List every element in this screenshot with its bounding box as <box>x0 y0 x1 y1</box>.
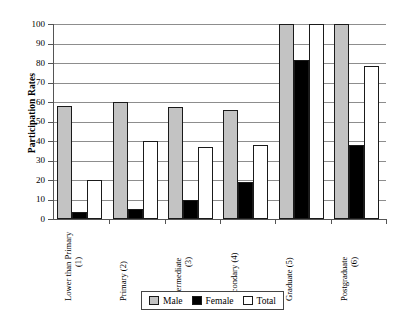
x-category-label: Postgraduate(6) <box>347 223 363 301</box>
y-tick-label-0: 0 <box>19 215 45 224</box>
bar-male <box>57 106 72 219</box>
x-category-label-line2: (6) <box>349 223 360 301</box>
bar-total <box>198 147 213 219</box>
x-category-label: Lower than Primary(1) <box>71 223 87 301</box>
y-tick-label-70: 70 <box>19 78 45 87</box>
bar-group <box>279 24 324 219</box>
bar-male <box>279 24 294 219</box>
bar-total <box>309 24 324 219</box>
participation-rates-bar-chart: Participation Rates 10090807060504030201… <box>0 0 404 322</box>
x-category-label-line2: (3) <box>183 223 194 301</box>
bar-male <box>113 102 128 219</box>
bar-group-bars <box>168 24 213 219</box>
legend-label-total: Total <box>257 296 276 306</box>
x-axis-category-labels: Lower than Primary(1)Primary (2)Intermed… <box>53 223 385 301</box>
bar-group <box>334 24 379 219</box>
bar-male <box>168 107 183 219</box>
bar-group <box>168 24 213 219</box>
y-tick-label-80: 80 <box>19 59 45 68</box>
y-tick-label-10: 10 <box>19 195 45 204</box>
bar-female <box>72 212 87 219</box>
bar-female <box>183 200 198 219</box>
legend-item-female[interactable]: Female <box>192 296 234 306</box>
bar-total <box>87 180 102 219</box>
legend-swatch-female-icon <box>192 296 202 305</box>
legend-label-male: Male <box>163 296 183 306</box>
bar-group-bars <box>113 24 158 219</box>
legend-label-female: Female <box>206 296 234 306</box>
bar-group <box>223 24 268 219</box>
y-tick-label-100: 100 <box>19 20 45 29</box>
bar-female <box>349 145 364 219</box>
bar-group-bars <box>223 24 268 219</box>
legend-swatch-total-icon <box>243 296 253 305</box>
plot-area <box>53 24 386 220</box>
x-category-label: Intermediate(3) <box>181 223 197 301</box>
x-category-label: Graduate (5) <box>292 223 308 301</box>
y-tick-label-60: 60 <box>19 98 45 107</box>
chart-legend: MaleFemaleTotal <box>141 291 284 310</box>
bar-total <box>253 145 268 219</box>
y-tick-label-20: 20 <box>19 176 45 185</box>
y-axis-title: Participation Rates <box>27 33 37 193</box>
plot-inner <box>54 24 386 219</box>
bar-total <box>364 66 379 219</box>
legend-item-total[interactable]: Total <box>243 296 276 306</box>
x-tick-mark <box>386 219 387 224</box>
y-tick-label-50: 50 <box>19 117 45 126</box>
y-tick-label-30: 30 <box>19 156 45 165</box>
legend-item-male[interactable]: Male <box>149 296 183 306</box>
x-category-label-line1: Primary (2) <box>118 223 129 301</box>
bar-group-bars <box>57 24 102 219</box>
bar-female <box>238 182 253 219</box>
bar-female <box>128 209 143 219</box>
y-tick-label-40: 40 <box>19 137 45 146</box>
bar-female <box>294 60 309 219</box>
bar-male <box>223 110 238 219</box>
legend-swatch-male-icon <box>149 296 159 305</box>
x-category-label-line2: (1) <box>73 223 84 301</box>
x-category-label-line1: Lower than Primary <box>63 223 74 301</box>
x-category-label: Secondary (4) <box>237 223 253 301</box>
bar-male <box>334 24 349 219</box>
bar-group-bars <box>334 24 379 219</box>
x-category-label-line1: Graduate (5) <box>284 223 295 301</box>
x-category-label: Primary (2) <box>126 223 142 301</box>
bar-total <box>143 141 158 219</box>
bar-group-bars <box>279 24 324 219</box>
y-tick-label-90: 90 <box>19 39 45 48</box>
bar-group <box>113 24 158 219</box>
x-category-label-line1: Secondary (4) <box>229 223 240 301</box>
bar-group <box>57 24 102 219</box>
